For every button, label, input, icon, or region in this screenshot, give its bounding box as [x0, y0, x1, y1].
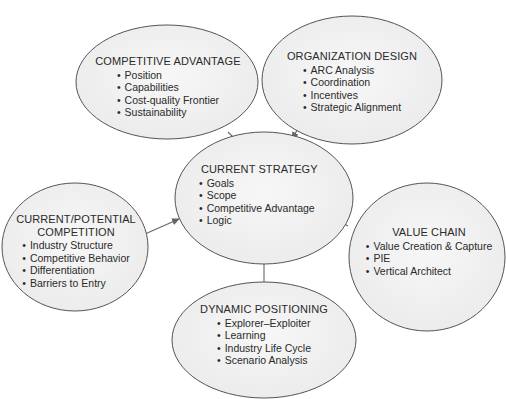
list-item: Sustainability	[117, 106, 219, 119]
node-title-line-1: CURRENT/POTENTIAL	[8, 213, 144, 226]
node-title: DYNAMIC POSITIONING	[182, 303, 346, 316]
node-current-potential-competition: CURRENT/POTENTIAL COMPETITION Industry S…	[8, 213, 144, 289]
node-title: ORGANIZATION DESIGN	[272, 50, 432, 63]
list-item: Logic	[199, 214, 315, 227]
list-item: Coordination	[303, 76, 401, 89]
list-item: Explorer–Exploiter	[217, 317, 311, 330]
list-item: Vertical Architect	[366, 265, 493, 278]
node-title: CURRENT STRATEGY	[199, 163, 349, 176]
list-item: Cost-quality Frontier	[117, 94, 219, 107]
node-dynamic-positioning: DYNAMIC POSITIONING Explorer–Exploiter L…	[182, 303, 346, 367]
node-competitive-advantage: COMPETITIVE ADVANTAGE Position Capabilit…	[77, 55, 259, 119]
node-item-list: Value Creation & Capture PIE Vertical Ar…	[366, 240, 493, 278]
node-title: COMPETITIVE ADVANTAGE	[77, 55, 259, 68]
list-item: Learning	[217, 329, 311, 342]
list-item: Differentiation	[22, 264, 129, 277]
list-item: ARC Analysis	[303, 64, 401, 77]
node-item-list: Position Capabilities Cost-quality Front…	[117, 69, 219, 119]
list-item: Strategic Alignment	[303, 101, 401, 114]
list-item: Competitive Behavior	[22, 252, 129, 265]
list-item: Barriers to Entry	[22, 277, 129, 290]
node-title-line-2: COMPETITION	[8, 226, 144, 239]
list-item: Scope	[199, 189, 315, 202]
list-item: Scenario Analysis	[217, 354, 311, 367]
list-item: PIE	[366, 252, 493, 265]
node-item-list: Goals Scope Competitive Advantage Logic	[199, 177, 315, 227]
node-organization-design: ORGANIZATION DESIGN ARC Analysis Coordin…	[272, 50, 432, 114]
node-item-list: Industry Structure Competitive Behavior …	[22, 239, 129, 289]
node-value-chain: VALUE CHAIN Value Creation & Capture PIE…	[356, 226, 502, 277]
list-item: Goals	[199, 177, 315, 190]
list-item: Incentives	[303, 89, 401, 102]
arrow-competition-to-strategy	[145, 219, 179, 234]
list-item: Capabilities	[117, 81, 219, 94]
list-item: Industry Life Cycle	[217, 342, 311, 355]
list-item: Value Creation & Capture	[366, 240, 493, 253]
node-title: VALUE CHAIN	[356, 226, 502, 239]
node-item-list: ARC Analysis Coordination Incentives Str…	[303, 64, 401, 114]
list-item: Position	[117, 69, 219, 82]
node-current-strategy: CURRENT STRATEGY Goals Scope Competitive…	[199, 163, 349, 227]
list-item: Industry Structure	[22, 239, 129, 252]
list-item: Competitive Advantage	[199, 202, 315, 215]
node-item-list: Explorer–Exploiter Learning Industry Lif…	[217, 317, 311, 367]
